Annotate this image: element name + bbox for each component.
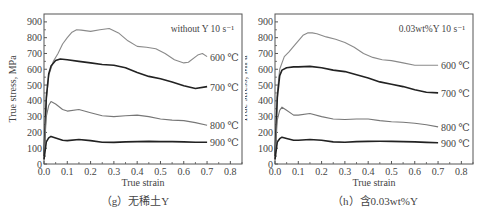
chart-annotation: without Y 10 s⁻¹ bbox=[171, 24, 235, 34]
y-tick-label: 900 bbox=[258, 16, 273, 27]
y-tick-label: 100 bbox=[27, 143, 42, 154]
x-tick-label: 0.4 bbox=[131, 166, 144, 177]
x-tick-label: 0.5 bbox=[385, 166, 398, 177]
x-tick-label: 0.2 bbox=[84, 166, 97, 177]
x-tick-label: 0.8 bbox=[224, 166, 237, 177]
y-tick-label: 500 bbox=[27, 80, 42, 91]
y-tick-label: 600 bbox=[258, 64, 273, 75]
y-tick-label: 700 bbox=[27, 48, 42, 59]
x-tick-label: 0.6 bbox=[178, 166, 191, 177]
x-tick-label: 0.1 bbox=[292, 166, 305, 177]
chart-panel-g: 01002003004005006007008009000.00.10.20.3… bbox=[0, 0, 245, 215]
y-axis-label: True stress, MPa bbox=[7, 55, 18, 123]
x-tick-label: 0.2 bbox=[315, 166, 328, 177]
y-tick-label: 100 bbox=[258, 143, 273, 154]
y-tick-label: 400 bbox=[27, 95, 42, 106]
x-tick-label: 0.0 bbox=[269, 166, 282, 177]
y-tick-label: 300 bbox=[258, 111, 273, 122]
series-label: 700 ℃ bbox=[441, 88, 470, 99]
x-tick-label: 0.5 bbox=[154, 166, 167, 177]
series-line-900 bbox=[275, 137, 438, 159]
chart-svg-h: 01002003004005006007008009000.00.10.20.3… bbox=[245, 0, 487, 215]
x-tick-label: 0.7 bbox=[432, 166, 445, 177]
y-axis-label: True stress, MPa bbox=[245, 55, 249, 123]
x-tick-label: 0.3 bbox=[339, 166, 352, 177]
x-tick-label: 0.6 bbox=[409, 166, 422, 177]
y-tick-label: 600 bbox=[27, 64, 42, 75]
series-label: 800 ℃ bbox=[441, 122, 470, 133]
series-line-800 bbox=[44, 102, 207, 157]
chart-svg-g: 01002003004005006007008009000.00.10.20.3… bbox=[0, 0, 245, 215]
series-label: 600 ℃ bbox=[210, 52, 239, 63]
y-tick-label: 700 bbox=[258, 48, 273, 59]
y-tick-label: 800 bbox=[258, 32, 273, 43]
series-label: 900 ℃ bbox=[210, 137, 239, 148]
y-tick-label: 200 bbox=[27, 127, 42, 138]
series-label: 700 ℃ bbox=[210, 82, 239, 93]
x-axis-label: True strain bbox=[352, 177, 395, 188]
series-label: 900 ℃ bbox=[441, 138, 470, 149]
series-line-900 bbox=[44, 136, 207, 159]
x-tick-label: 0.8 bbox=[455, 166, 468, 177]
series-label: 600 ℃ bbox=[441, 60, 470, 71]
series-label: 800 ℃ bbox=[210, 120, 239, 131]
x-axis-label: True strain bbox=[121, 177, 164, 188]
y-tick-label: 200 bbox=[258, 127, 273, 138]
series-line-600 bbox=[275, 33, 438, 156]
y-tick-label: 300 bbox=[27, 111, 42, 122]
y-tick-label: 500 bbox=[258, 80, 273, 91]
caption-h: （h）含0.03wt%Y bbox=[300, 192, 450, 208]
series-line-800 bbox=[275, 107, 438, 156]
series-line-600 bbox=[44, 29, 207, 157]
chart-annotation: 0.03wt%Y 10 s⁻¹ bbox=[399, 24, 466, 34]
x-tick-label: 0.1 bbox=[61, 166, 74, 177]
x-tick-label: 0.0 bbox=[38, 166, 51, 177]
x-tick-label: 0.3 bbox=[108, 166, 121, 177]
y-tick-label: 800 bbox=[27, 32, 42, 43]
x-tick-label: 0.7 bbox=[201, 166, 214, 177]
chart-panel-h: 01002003004005006007008009000.00.10.20.3… bbox=[245, 0, 487, 215]
x-tick-label: 0.4 bbox=[362, 166, 375, 177]
y-tick-label: 400 bbox=[258, 95, 273, 106]
y-tick-label: 900 bbox=[27, 16, 42, 27]
caption-g: （g）无稀土Y bbox=[60, 192, 210, 208]
